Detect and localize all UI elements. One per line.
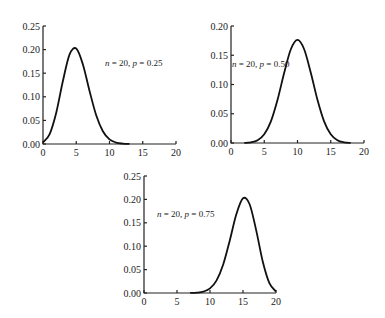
x-tick-label: 0 [142, 296, 147, 307]
y-tick-label: 0.20 [211, 21, 229, 32]
y-tick-label: 0.20 [124, 194, 142, 205]
y-tick-label: 0.00 [124, 288, 142, 299]
x-tick-label: 5 [74, 147, 79, 158]
y-tick-label: 0.15 [124, 217, 142, 228]
parameter-annotation: n = 20, p = 0.25 [105, 58, 163, 68]
y-tick-label: 0.10 [124, 241, 142, 252]
x-tick-label: 15 [138, 147, 148, 158]
x-tick-label: 10 [205, 296, 215, 307]
chart-p-050: 0.000.050.100.150.2005101520n = 20, p = … [211, 21, 370, 158]
x-tick-label: 20 [359, 146, 369, 157]
x-tick-label: 10 [105, 147, 115, 158]
y-tick-label: 0.05 [124, 264, 142, 275]
x-tick-label: 0 [41, 147, 46, 158]
binomial-distribution-figure: 0.000.050.100.150.200.2505101520n = 20, … [0, 0, 385, 318]
axes [231, 26, 364, 143]
x-tick-label: 15 [326, 146, 336, 157]
y-tick-label: 0.10 [23, 91, 41, 102]
y-tick-label: 0.05 [23, 115, 41, 126]
x-tick-label: 10 [293, 146, 303, 157]
parameter-annotation: n = 20, p = 0.75 [157, 209, 215, 219]
x-tick-label: 20 [271, 296, 281, 307]
x-tick-label: 0 [229, 146, 234, 157]
y-tick-label: 0.25 [124, 171, 142, 182]
x-tick-label: 5 [175, 296, 180, 307]
y-tick-label: 0.15 [23, 68, 41, 79]
y-tick-label: 0.25 [23, 21, 41, 32]
y-tick-label: 0.15 [211, 50, 229, 61]
y-tick-label: 0.00 [23, 139, 41, 150]
y-tick-label: 0.10 [211, 79, 229, 90]
chart-p-025: 0.000.050.100.150.200.2505101520n = 20, … [23, 21, 182, 159]
parameter-annotation: n = 20, p = 0.50 [232, 59, 290, 69]
x-tick-label: 20 [171, 147, 181, 158]
y-tick-label: 0.20 [23, 44, 41, 55]
chart-p-075: 0.000.050.100.150.200.2505101520n = 20, … [124, 171, 282, 308]
y-tick-label: 0.05 [211, 108, 229, 119]
x-tick-label: 15 [238, 296, 248, 307]
distribution-curve [244, 40, 350, 143]
x-tick-label: 5 [262, 146, 267, 157]
y-tick-label: 0.00 [211, 138, 229, 149]
